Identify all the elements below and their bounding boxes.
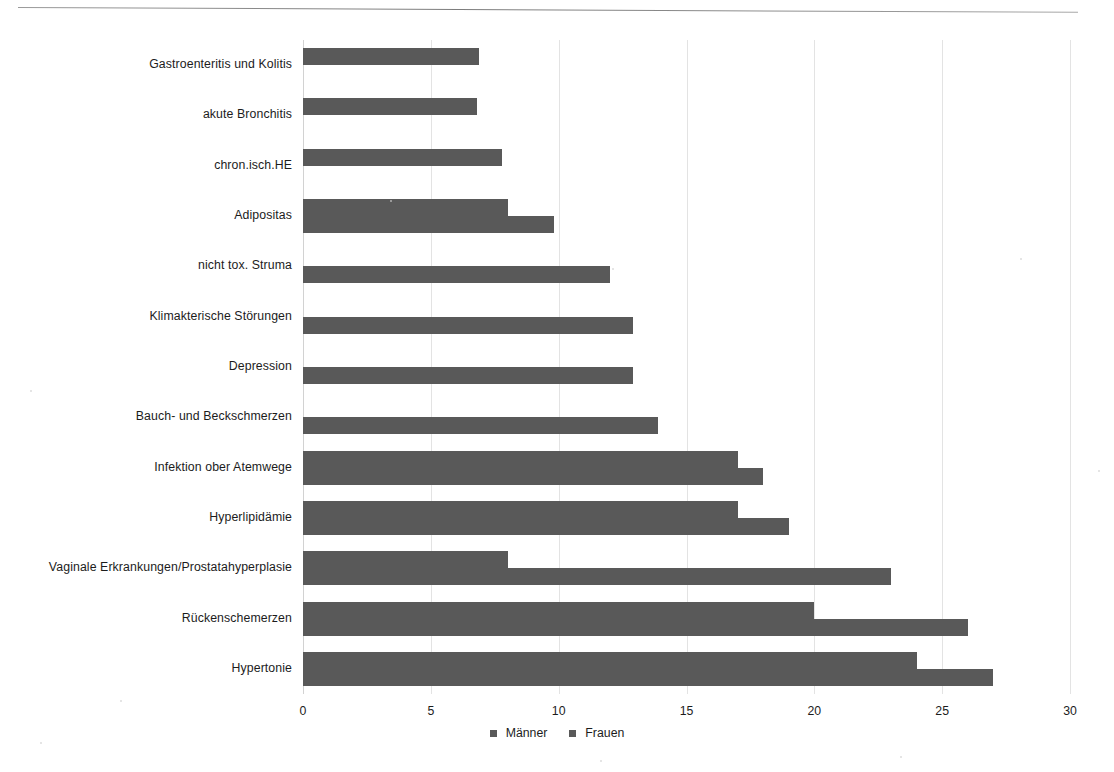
x-axis-tick-label: 30 xyxy=(1063,704,1077,718)
chart-legend: MännerFrauen xyxy=(0,726,1114,740)
scan-speckle xyxy=(612,268,614,270)
x-axis-tick-label: 25 xyxy=(935,704,949,718)
bar-frauen xyxy=(303,216,554,233)
bar-männer xyxy=(303,199,508,216)
chart-category-row: Gastroenteritis und Kolitis xyxy=(303,40,1070,90)
category-label: Hyperlipidämie xyxy=(209,511,292,525)
category-label: Adipositas xyxy=(234,209,292,223)
bar-frauen xyxy=(303,468,763,485)
chart-category-row: chron.isch.HE xyxy=(303,141,1070,191)
gridline-30 xyxy=(1070,40,1071,694)
bar-frauen xyxy=(303,317,633,334)
legend-label: Frauen xyxy=(585,726,624,740)
bar-frauen xyxy=(303,518,789,535)
chart-category-row: nicht tox. Struma xyxy=(303,241,1070,291)
chart-category-row: akute Bronchitis xyxy=(303,90,1070,140)
scan-speckle xyxy=(1020,258,1022,260)
bar-männer xyxy=(303,98,477,115)
chart-category-row: Rückenschemerzen xyxy=(303,593,1070,643)
x-axis-tick-label: 10 xyxy=(552,704,566,718)
category-label: Vaginale Erkrankungen/Prostatahyperplasi… xyxy=(49,561,292,575)
scan-speckle xyxy=(900,756,902,758)
chart-category-row: Adipositas xyxy=(303,191,1070,241)
scan-speckle xyxy=(600,760,602,762)
category-label: Gastroenteritis und Kolitis xyxy=(149,58,292,72)
scan-speckle xyxy=(30,390,32,392)
chart-category-row: Vaginale Erkrankungen/Prostatahyperplasi… xyxy=(303,543,1070,593)
bar-männer xyxy=(303,451,738,468)
x-axis: 051015202530 xyxy=(303,694,1070,724)
chart-category-row: Hypertonie xyxy=(303,644,1070,694)
x-axis-tick-label: 20 xyxy=(807,704,821,718)
legend-entry: Frauen xyxy=(569,726,624,740)
bar-chart-figure: Gastroenteritis und Kolitisakute Bronchi… xyxy=(0,0,1114,772)
bar-frauen xyxy=(303,568,891,585)
legend-swatch-maenner xyxy=(490,730,497,737)
bar-männer xyxy=(303,149,502,166)
category-label: Rückenschemerzen xyxy=(182,612,292,626)
x-axis-tick-label: 5 xyxy=(427,704,434,718)
bar-männer xyxy=(303,602,814,619)
bar-frauen xyxy=(303,619,968,636)
legend-label: Männer xyxy=(506,726,548,740)
bar-frauen xyxy=(303,417,658,434)
category-label: Hypertonie xyxy=(232,662,292,676)
bar-männer xyxy=(303,48,479,65)
legend-swatch-frauen xyxy=(569,730,576,737)
chart-category-row: Hyperlipidämie xyxy=(303,493,1070,543)
x-axis-tick-label: 15 xyxy=(680,704,694,718)
category-label: Bauch- und Beckschmerzen xyxy=(136,411,292,425)
scan-speckle xyxy=(40,742,42,744)
bar-frauen xyxy=(303,669,993,686)
category-label: chron.isch.HE xyxy=(214,159,292,173)
category-label: nicht tox. Struma xyxy=(198,260,292,274)
plot-area: Gastroenteritis und Kolitisakute Bronchi… xyxy=(303,40,1070,694)
bar-männer xyxy=(303,501,738,518)
chart-category-row: Infektion ober Atemwege xyxy=(303,442,1070,492)
x-axis-tick-label: 0 xyxy=(300,704,307,718)
legend-entry: Männer xyxy=(490,726,548,740)
scan-speckle xyxy=(1098,470,1100,472)
chart-category-row: Klimakterische Störungen xyxy=(303,292,1070,342)
chart-category-row: Bauch- und Beckschmerzen xyxy=(303,392,1070,442)
category-label: Infektion ober Atemwege xyxy=(154,461,292,475)
bar-männer xyxy=(303,652,917,669)
scan-speckle xyxy=(390,200,392,202)
bar-frauen xyxy=(303,266,610,283)
chart-category-row: Depression xyxy=(303,342,1070,392)
bar-frauen xyxy=(303,367,633,384)
bar-männer xyxy=(303,551,508,568)
category-label: Depression xyxy=(229,360,292,374)
scan-speckle xyxy=(120,700,122,702)
category-label: akute Bronchitis xyxy=(203,109,292,123)
category-label: Klimakterische Störungen xyxy=(149,310,292,324)
